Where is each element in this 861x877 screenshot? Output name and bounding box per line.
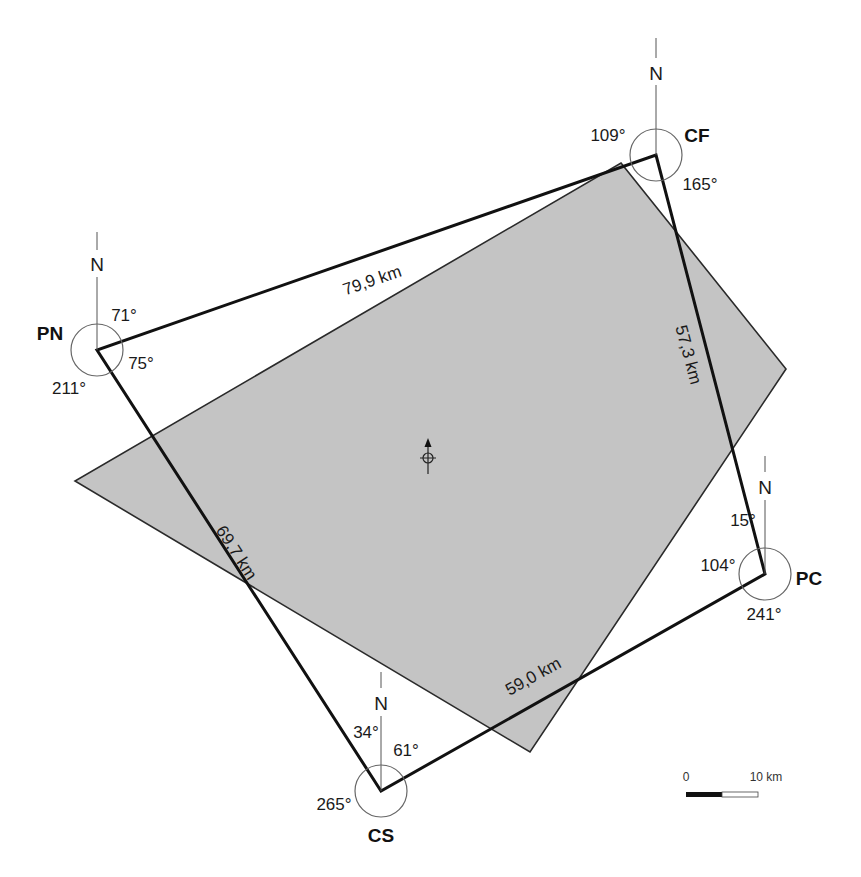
north-label: N [90,254,104,275]
angle-label: 34° [353,723,379,742]
traverse-diagram: N 109° 165° CF N 71° 75° 211° PN N 15° 1… [0,0,861,877]
angle-label: 211° [52,379,86,398]
angle-label: 61° [393,741,419,760]
scale-start-label: 0 [683,770,690,784]
station-cs: N 34° 61° 265° CS [316,672,418,846]
station-label: PC [796,568,823,589]
station-label: CS [368,825,394,846]
station-label: CF [684,125,709,146]
station-label: PN [37,323,63,344]
scale-bar: 0 10 km [683,770,783,797]
angle-label: 165° [682,175,717,194]
station-pn: N 71° 75° 211° PN [37,232,154,398]
angle-label: 71° [111,306,137,325]
angle-label: 104° [700,556,735,575]
angle-label: 15° [730,511,756,530]
angle-label: 265° [316,795,351,814]
north-label: N [374,693,388,714]
scale-end-label: 10 km [750,770,783,784]
north-label: N [649,63,663,84]
angle-label: 109° [590,126,625,145]
angle-label: 241° [746,605,781,624]
angle-label: 75° [128,354,154,373]
distance-pn-cf: 79,9 km [340,262,403,300]
north-label: N [758,477,772,498]
